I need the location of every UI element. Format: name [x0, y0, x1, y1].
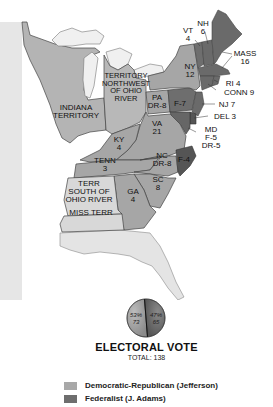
label-nc: NC DR-8	[153, 152, 172, 168]
label-ky: KY 4	[114, 136, 125, 152]
terr-south-label-3: OHIO RIVER	[65, 196, 112, 204]
label-northwest: TERRITORY NORTHWEST OF OHIO RIVER	[102, 72, 150, 102]
electoral-vote-total: TOTAL: 138	[0, 354, 273, 361]
label-va: VA 21	[152, 120, 162, 136]
legend-swatch-dr	[64, 382, 77, 390]
label-tenn: TENN 3	[94, 157, 116, 173]
label-conn: CONN 9	[224, 89, 254, 97]
lake-superior	[52, 28, 104, 46]
dr-percent: 53%	[130, 312, 142, 318]
label-pa-fed: F-7	[174, 100, 186, 108]
election-map	[0, 0, 273, 300]
del-text: DEL 3	[214, 113, 236, 121]
pie-label-dr: 53% 73	[128, 312, 144, 326]
label-ri: RI 4	[226, 80, 241, 88]
dr-votes: 73	[133, 319, 140, 325]
label-nc-fed: F-4	[178, 156, 190, 164]
nc-fed-votes: F-4	[178, 156, 190, 164]
indiana-label-2: TERRITORY	[53, 112, 99, 120]
western-land	[0, 22, 22, 300]
label-del: DEL 3	[214, 113, 236, 121]
label-nh: NH 6	[197, 20, 209, 36]
legend-label-fed: Federalist (J. Adams)	[85, 394, 166, 403]
ga-votes: 4	[127, 196, 139, 204]
vt-votes: 4	[183, 35, 193, 43]
pa-dr-votes: DR-8	[148, 102, 167, 110]
label-mass: MASS 16	[234, 50, 257, 66]
fed-percent: 47%	[150, 312, 162, 318]
ny-votes: 12	[184, 71, 195, 79]
miss-terr-text: MISS TERR	[69, 209, 112, 217]
electoral-vote-title: ELECTORAL VOTE	[0, 341, 273, 353]
nh-votes: 6	[197, 28, 209, 36]
legend-label-dr: Democratic-Republican (Jefferson)	[85, 381, 218, 390]
nc-dr-votes: DR-8	[153, 160, 172, 168]
tenn-votes: 3	[94, 165, 116, 173]
ri-text: RI 4	[226, 80, 241, 88]
state-mass	[198, 64, 230, 76]
mass-votes: 16	[234, 58, 257, 66]
label-vt: VT 4	[183, 27, 193, 43]
state-conn	[200, 76, 214, 90]
fed-votes: 65	[153, 319, 160, 325]
label-md: MD F-5 DR-5	[202, 126, 221, 150]
label-sc: SC 8	[152, 176, 163, 192]
md-dr-votes: DR-5	[202, 142, 221, 150]
label-pa: PA DR-8	[148, 94, 167, 110]
pa-fed-votes: F-7	[174, 100, 186, 108]
nj-text: NJ 7	[219, 101, 235, 109]
legend-item-federalist: Federalist (J. Adams)	[64, 394, 166, 403]
florida	[60, 230, 184, 300]
legend-swatch-fed	[64, 395, 77, 403]
ky-votes: 4	[114, 144, 125, 152]
sc-votes: 8	[152, 184, 163, 192]
pie-label-fed: 47% 65	[148, 312, 164, 326]
label-ga: GA 4	[127, 188, 139, 204]
label-ny: NY 12	[184, 63, 195, 79]
label-miss: MISS TERR	[69, 209, 112, 217]
label-terr-south: TERR SOUTH OF OHIO RIVER	[65, 180, 112, 204]
northwest-label-4: RIVER	[102, 95, 150, 103]
conn-text: CONN 9	[224, 89, 254, 97]
label-nj: NJ 7	[219, 101, 235, 109]
lake-michigan	[83, 52, 98, 98]
label-indiana: INDIANA TERRITORY	[53, 104, 99, 120]
legend-item-democratic-republican: Democratic-Republican (Jefferson)	[64, 381, 218, 390]
va-votes: 21	[152, 128, 162, 136]
